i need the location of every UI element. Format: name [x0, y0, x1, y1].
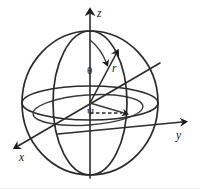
y-axis-line: [58, 122, 182, 134]
x-axis-label: x: [18, 151, 25, 163]
spherical-coordinate-diagram: z y x r θ ψ: [0, 0, 200, 189]
spherical-coordinates-figure: z y x r θ ψ: [0, 0, 200, 189]
azimuth-angle-arrow: [90, 103, 124, 113]
azimuth-angle-label: ψ: [87, 104, 94, 116]
z-axis-label: z: [96, 7, 102, 19]
polar-angle-label: θ: [87, 64, 92, 76]
polar-angle-arc: [90, 40, 106, 62]
radius-label: r: [112, 62, 117, 74]
y-axis-label: y: [175, 129, 182, 142]
